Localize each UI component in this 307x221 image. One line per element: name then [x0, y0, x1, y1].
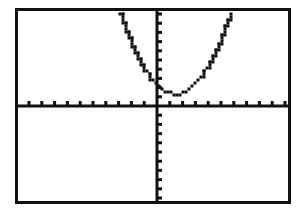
curve-pixel — [221, 37, 224, 40]
curve-pixel — [209, 64, 212, 67]
curve-pixel — [209, 67, 212, 70]
curve-pixel — [212, 58, 215, 61]
curve-pixel — [122, 13, 125, 16]
curve-pixel — [221, 43, 224, 46]
curve-pixel — [125, 31, 128, 34]
curve-pixel — [125, 22, 128, 25]
curve-pixel — [221, 34, 224, 37]
curve-pixel — [128, 31, 131, 34]
curve-pixel — [173, 94, 176, 97]
curve-pixel — [158, 85, 161, 88]
curve-pixel — [134, 49, 137, 52]
curve-pixel — [140, 61, 143, 64]
curve-pixel — [221, 40, 224, 43]
curve-pixel — [143, 64, 146, 67]
curve-pixel — [209, 61, 212, 64]
curve-pixel — [206, 67, 209, 70]
curve-pixel — [137, 55, 140, 58]
curve-pixel — [215, 49, 218, 52]
curve-pixel — [128, 34, 131, 37]
curve-pixel — [137, 58, 140, 61]
curve-pixel — [212, 55, 215, 58]
curve-pixel — [155, 82, 158, 85]
curve-pixel — [200, 76, 203, 79]
curve-pixel — [122, 16, 125, 19]
curve-pixel — [203, 70, 206, 73]
graph-canvas — [18, 11, 288, 201]
curve-pixel — [176, 94, 179, 97]
curve-pixel — [203, 76, 206, 79]
curve-pixel — [131, 46, 134, 49]
curve-pixel — [122, 19, 125, 22]
curve-pixel — [149, 73, 152, 76]
curve-pixel — [224, 28, 227, 31]
curve-pixel — [230, 19, 233, 22]
curve-pixel — [197, 79, 200, 82]
curve-pixel — [119, 13, 122, 16]
curve-pixel — [230, 16, 233, 19]
curve-pixel — [131, 37, 134, 40]
curve-pixel — [230, 13, 233, 16]
curve-pixel — [131, 43, 134, 46]
curve-pixel — [191, 85, 194, 88]
curve-pixel — [161, 88, 164, 91]
curve-pixel — [137, 52, 140, 55]
curve-pixel — [149, 79, 152, 82]
curve-pixel — [179, 94, 182, 97]
curve-pixel — [194, 82, 197, 85]
curve-pixel — [134, 46, 137, 49]
curve-pixel — [218, 49, 221, 52]
curve-pixel — [212, 61, 215, 64]
screenshot-root — [0, 0, 307, 221]
curve-pixel — [218, 43, 221, 46]
curve-pixel — [218, 46, 221, 49]
curve-pixel — [170, 91, 173, 94]
calculator-screen — [15, 8, 291, 204]
curve-pixel — [143, 67, 146, 70]
curve-pixel — [227, 22, 230, 25]
curve-pixel — [152, 79, 155, 82]
curve-pixel — [167, 91, 170, 94]
curve-pixel — [122, 22, 125, 25]
curve-pixel — [182, 91, 185, 94]
curve-pixel — [203, 73, 206, 76]
plot-area — [18, 11, 288, 201]
curve-pixel — [140, 64, 143, 67]
curve-pixel — [224, 34, 227, 37]
curve-pixel — [131, 40, 134, 43]
curve-pixel — [146, 70, 149, 73]
curve-pixel — [227, 19, 230, 22]
curve-pixel — [149, 76, 152, 79]
curve-pixel — [188, 88, 191, 91]
curve-pixel — [224, 25, 227, 28]
curve-pixel — [185, 91, 188, 94]
curve-pixel — [140, 58, 143, 61]
curve-pixel — [128, 37, 131, 40]
curve-pixel — [215, 55, 218, 58]
parabola-curve — [119, 13, 233, 97]
curve-pixel — [143, 70, 146, 73]
curve-pixel — [227, 25, 230, 28]
curve-pixel — [224, 31, 227, 34]
curve-pixel — [134, 52, 137, 55]
curve-pixel — [125, 28, 128, 31]
curve-pixel — [215, 52, 218, 55]
curve-pixel — [164, 91, 167, 94]
curve-pixel — [125, 25, 128, 28]
